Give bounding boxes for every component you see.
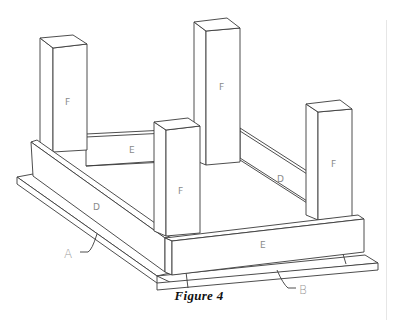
post-front-left: F xyxy=(154,118,200,236)
callout-label-a: A xyxy=(64,247,72,261)
callout-a: A xyxy=(64,234,97,261)
part-label-right-rail: D xyxy=(277,174,284,184)
part-label-left-rail: D xyxy=(93,202,100,212)
assembly-diagram: E D F F D F F xyxy=(0,0,398,330)
post-back-left: F xyxy=(40,35,87,152)
part-label-post-front-left: F xyxy=(178,186,183,196)
post-back-right: F xyxy=(194,18,240,165)
post-front-right: F xyxy=(306,100,352,220)
page-edge-line xyxy=(386,20,387,320)
part-label-post-front-right: F xyxy=(331,159,336,169)
part-label-post-back-left: F xyxy=(65,97,70,107)
part-label-front-rail: E xyxy=(260,240,266,250)
figure-caption: Figure 4 xyxy=(0,288,398,304)
part-label-post-back-right: F xyxy=(219,82,224,92)
part-label-back-rail: E xyxy=(129,145,135,155)
